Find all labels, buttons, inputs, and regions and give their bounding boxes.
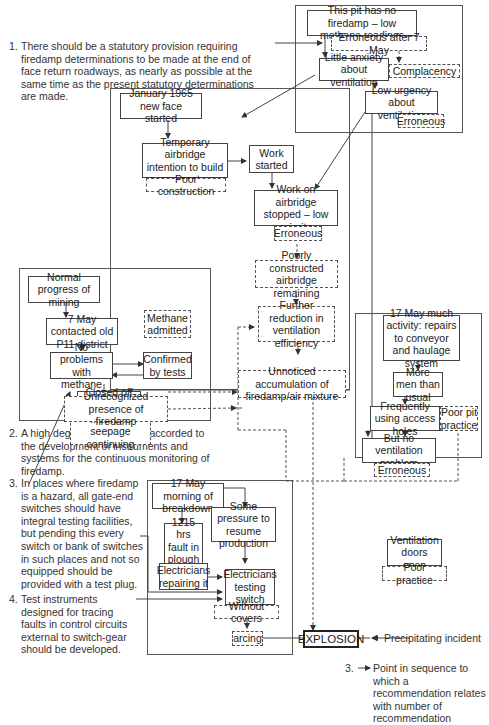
node-frequently-using: Frequently using access holes <box>370 406 440 431</box>
node-work-started: Work started <box>249 145 294 173</box>
node-erroneous-3: Erroneous <box>374 463 430 477</box>
recommendation-3: 3. In places where firedamp is a hazard,… <box>9 477 144 590</box>
legend-point-text: Point in sequence to which a recommendat… <box>373 662 488 725</box>
node-more-men: More men than usual <box>393 372 443 397</box>
node-methane-admitted: Methane admitted <box>144 310 191 338</box>
legend-precipitating: Precipitating incident <box>384 632 481 645</box>
node-poor-practice: Poor practice <box>382 566 447 581</box>
node-no-vent-problem: But no ventilation problem <box>362 438 436 463</box>
node-explosion: EXPLOSION <box>303 630 359 648</box>
node-jan-1965: January 1965 new face started <box>120 93 202 119</box>
node-poor-pit-practice: Poor pit practice <box>440 406 478 431</box>
node-poor-construction: Poor construction <box>146 178 226 192</box>
node-erroneous-1: Erroneous <box>398 114 444 128</box>
node-unrecognized-presence: Unrecognized presence of firedamp <box>64 396 168 422</box>
node-complacency: Complacency <box>389 64 460 78</box>
node-erroneous-2: Erroneous <box>274 226 322 241</box>
node-no-problems: No problems with methane <box>50 352 113 379</box>
node-some-pressure: Some pressure to resume production <box>211 507 276 542</box>
node-may17-activity: 17 May much activity: repairs to conveyo… <box>383 315 460 361</box>
node-further-reduction: Further reduction in ventilation efficie… <box>258 306 335 342</box>
node-work-stopped: Work on airbridge stopped – low priority <box>254 190 338 226</box>
node-little-anxiety: Little anxiety about ventilation <box>319 58 389 81</box>
node-erroneous-after-7may: Erroneous after 7 May <box>331 36 427 51</box>
node-arcing: arcing <box>232 631 263 646</box>
node-elec-repairing: Electricians repairing it <box>159 563 208 590</box>
node-confirmed-tests: Confirmed by tests <box>143 352 192 379</box>
node-poorly-constructed: Poorly constructed airbridge remaining <box>255 260 338 288</box>
node-low-urgency: Low urgency about ventilation <box>365 91 438 114</box>
node-unnoticed-accumulation: Unnoticed accumulation of firedamp/air m… <box>238 370 346 398</box>
node-normal-progress: Normal progress of mining <box>28 276 100 303</box>
recommendation-4: 4. Test instruments designed for tracing… <box>9 593 139 656</box>
legend-point-num: 3. <box>345 662 354 675</box>
node-without-covers: Without covers <box>214 605 279 619</box>
